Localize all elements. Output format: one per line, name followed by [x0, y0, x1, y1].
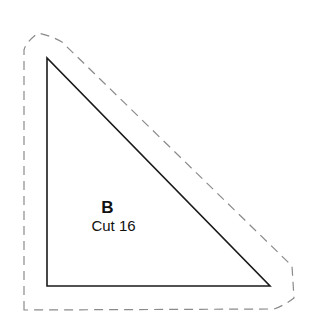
cut-instruction: Cut 16 [0, 218, 227, 234]
pattern-piece-diagram [0, 0, 313, 328]
triangle-cut-line [47, 58, 270, 286]
piece-letter: B [0, 199, 215, 216]
